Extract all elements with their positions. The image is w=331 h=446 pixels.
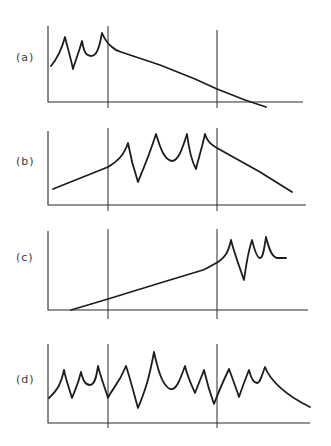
panel-b-label: (b) bbox=[16, 155, 35, 168]
panel-b-axes bbox=[48, 131, 306, 205]
panel-d-curve bbox=[49, 352, 310, 408]
panel-b bbox=[48, 128, 306, 211]
panel-c-axes bbox=[48, 231, 308, 310]
panel-c-curve bbox=[71, 237, 286, 310]
panel-a-label: (a) bbox=[16, 51, 34, 64]
panel-a-curve bbox=[51, 33, 266, 107]
panel-c bbox=[48, 229, 308, 319]
panel-a-axes bbox=[48, 26, 303, 102]
panel-b-curve bbox=[53, 134, 292, 192]
panel-c-label: (c) bbox=[16, 251, 34, 264]
panel-a bbox=[48, 26, 303, 108]
panel-d-label: (d) bbox=[16, 373, 35, 386]
figure-canvas bbox=[0, 0, 331, 446]
panel-d bbox=[48, 344, 310, 428]
